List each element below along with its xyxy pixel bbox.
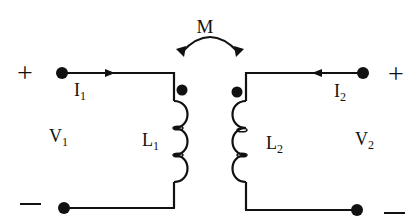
terminal-secondary-bottom xyxy=(351,204,363,216)
mutual-inductance-label: M xyxy=(197,16,214,37)
voltage-v2-label: V2 xyxy=(355,129,374,152)
mutual-arc-arrow-left-icon xyxy=(176,46,186,57)
current-i1-label: I1 xyxy=(74,80,86,103)
primary-plus-sign: + xyxy=(17,57,33,88)
coupled-inductor-diagram: M + I1 V1 L1 xyxy=(0,0,420,222)
inductor-l1-coil xyxy=(174,101,188,182)
terminal-primary-bottom xyxy=(58,202,70,214)
polarity-dot-secondary xyxy=(232,87,243,98)
inductor-l2-label: L2 xyxy=(266,133,283,156)
polarity-dot-primary xyxy=(177,85,188,96)
current-i2-label: I2 xyxy=(334,81,346,104)
inductor-l2-coil xyxy=(233,101,247,182)
mutual-arc-arrow-right-icon xyxy=(234,46,244,57)
secondary-circuit: + I2 V2 L2 xyxy=(232,58,406,216)
secondary-plus-sign: + xyxy=(388,58,404,89)
mutual-coupling-arc xyxy=(182,37,238,52)
primary-circuit: + I1 V1 L1 xyxy=(17,57,187,214)
inductor-l1-label: L1 xyxy=(142,130,159,153)
voltage-v1-label: V1 xyxy=(49,126,68,149)
